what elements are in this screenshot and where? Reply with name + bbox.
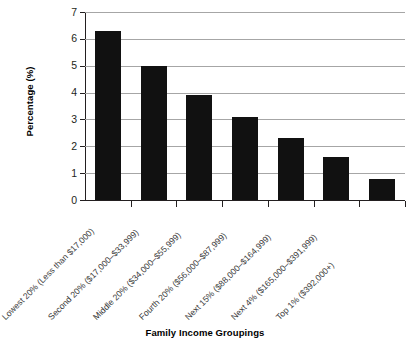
x-tick-mark [222,201,223,207]
y-tick-label: 2 [57,141,77,152]
x-axis-title: Family Income Groupings [0,327,410,338]
x-tick-mark [176,201,177,207]
bar [369,179,395,200]
x-category-label: Next 4% ($165,000–$391,999) [228,232,318,322]
y-tick-label: 3 [57,114,77,125]
x-tick-mark [314,201,315,207]
x-axis-line [85,200,405,201]
x-category-label: Next 15% ($88,000–$164,999) [183,232,273,322]
y-tick-label: 1 [57,168,77,179]
y-tick-label: 6 [57,33,77,44]
y-tick-mark [80,119,85,120]
y-tick-mark [80,200,85,201]
bar [323,157,349,200]
gridline [85,93,405,94]
y-tick-mark [80,173,85,174]
x-category-label: Middle 20% ($34,000–$55,999) [91,230,183,322]
bar-chart: Percentage (%) 01234567Lowest 20% (Less … [0,0,410,351]
y-axis-title: Percentage (%) [24,32,35,172]
bar [141,66,167,200]
y-tick-label: 0 [57,195,77,206]
y-tick-mark [80,39,85,40]
y-tick-mark [80,12,85,13]
x-tick-mark [405,201,406,207]
gridline [85,66,405,67]
bar [186,95,212,200]
bar [278,138,304,200]
y-tick-label: 7 [57,7,77,18]
bar [232,117,258,200]
x-category-label: Lowest 20% (Less than $17,000) [0,226,96,322]
x-tick-mark [359,201,360,207]
x-category-label: Second 20% ($17,000–$33,999) [46,227,141,322]
bar [95,31,121,200]
gridline [85,39,405,40]
y-tick-label: 4 [57,87,77,98]
y-tick-label: 5 [57,60,77,71]
x-category-label: Fourth 20% ($56,000–$87,999) [137,230,229,322]
y-tick-mark [80,93,85,94]
gridline [85,12,405,13]
y-tick-mark [80,66,85,67]
x-tick-mark [131,201,132,207]
plot-area [85,12,405,200]
x-tick-mark [268,201,269,207]
y-tick-mark [80,146,85,147]
